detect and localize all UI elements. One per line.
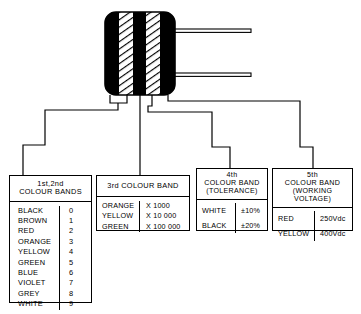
table-1-value-column: 0 1 2 3 4 5 6 7 8 9	[60, 206, 91, 310]
table-4-colour-column: RED YELLOW	[273, 211, 315, 241]
table-row: BLUE	[18, 268, 59, 278]
table-row: VIOLET	[18, 278, 59, 288]
table-third-colour-band: 3rd COLOUR BAND ORANGE YELLOW GREEN X 10…	[96, 175, 190, 231]
table-row: BROWN	[18, 216, 59, 226]
band-4	[146, 12, 160, 95]
table-4-voltage-column: 250Vdc 400Vdc	[315, 211, 352, 241]
table-cell-value: 9	[69, 299, 91, 309]
table-2-body: ORANGE YELLOW GREEN X 1000 X 10 000 X 10…	[97, 197, 189, 236]
table-2-title-line-1: 3rd COLOUR BAND	[99, 182, 187, 190]
leader-line-table-4	[168, 95, 313, 168]
band-1	[105, 12, 119, 95]
table-cell-value: 400Vdc	[320, 226, 352, 241]
table-row: BLACK	[18, 206, 59, 216]
table-2-multiplier-column: X 1000 X 10 000 X 100 000	[140, 201, 189, 232]
table-3-tolerance-column: ±10% ±20%	[236, 203, 267, 233]
leader-bracket-bands-1-2	[110, 95, 127, 103]
table-row: GREY	[18, 289, 59, 299]
table-cell-value: ±20%	[241, 218, 267, 233]
table-cell-value: 0	[69, 206, 91, 216]
table-1-body: BLACK BROWN RED ORANGE YELLOW GREEN BLUE…	[10, 202, 91, 314]
table-row: YELLOW	[278, 226, 314, 241]
table-3-colour-column: WHITE BLACK	[197, 203, 236, 233]
table-cell-value: 1	[69, 216, 91, 226]
table-4-title: 5th COLOUR BAND (WORKING VOLTAGE)	[273, 169, 352, 208]
table-cell-value: 4	[69, 247, 91, 257]
table-cell-value: X 10 000	[146, 211, 189, 221]
table-3-title: 4th COLOUR BAND (TOLERANCE)	[197, 169, 267, 200]
table-cell-value: 8	[69, 289, 91, 299]
table-row: GREEN	[102, 222, 139, 232]
leader-line-table-4th-helper	[140, 95, 230, 168]
table-row: ORANGE	[18, 237, 59, 247]
table-cell-value: 7	[69, 278, 91, 288]
table-cell-value: 250Vdc	[320, 211, 352, 226]
table-row: RED	[18, 226, 59, 236]
table-cell-value: ±10%	[241, 203, 267, 218]
resistor-lead-bottom	[170, 73, 251, 76]
table-row: YELLOW	[18, 247, 59, 257]
band-5	[160, 12, 175, 95]
table-row: GREEN	[18, 258, 59, 268]
leader-line-table-3	[148, 95, 230, 168]
table-4-body: RED YELLOW 250Vdc 400Vdc	[273, 208, 352, 244]
table-row: RED	[278, 211, 314, 226]
table-4-title-line-3: (WORKING VOLTAGE)	[275, 188, 350, 204]
table-1-colour-column: BLACK BROWN RED ORANGE YELLOW GREEN BLUE…	[10, 206, 60, 310]
table-cell-value: X 100 000	[146, 222, 189, 232]
leader-line-table-1	[23, 103, 118, 175]
table-cell-value: 5	[69, 258, 91, 268]
table-fourth-colour-band-tolerance: 4th COLOUR BAND (TOLERANCE) WHITE BLACK …	[196, 168, 268, 231]
table-2-colour-column: ORANGE YELLOW GREEN	[97, 201, 140, 232]
table-fifth-colour-band-working-voltage: 5th COLOUR BAND (WORKING VOLTAGE) RED YE…	[272, 168, 353, 231]
table-row: BLACK	[202, 218, 235, 233]
table-1-title-line-2: COLOUR BANDS	[12, 188, 89, 196]
table-cell-value: X 1000	[146, 201, 189, 211]
table-row: WHITE	[18, 299, 59, 309]
table-2-title: 3rd COLOUR BAND	[97, 176, 189, 197]
table-row: YELLOW	[102, 211, 139, 221]
table-1-title: 1st,2nd COLOUR BANDS	[10, 176, 91, 202]
table-cell-value: 3	[69, 237, 91, 247]
table-first-second-colour-bands: 1st,2nd COLOUR BANDS BLACK BROWN RED ORA…	[9, 175, 92, 303]
band-2	[119, 12, 133, 95]
resistor-lead-top	[170, 29, 251, 32]
table-3-title-line-3: (TOLERANCE)	[199, 188, 265, 196]
table-cell-value: 6	[69, 268, 91, 278]
table-3-body: WHITE BLACK ±10% ±20%	[197, 200, 267, 236]
table-row: WHITE	[202, 203, 235, 218]
table-cell-value: 2	[69, 226, 91, 236]
band-3	[133, 12, 146, 95]
table-row: ORANGE	[102, 201, 139, 211]
resistor-body	[105, 12, 175, 95]
